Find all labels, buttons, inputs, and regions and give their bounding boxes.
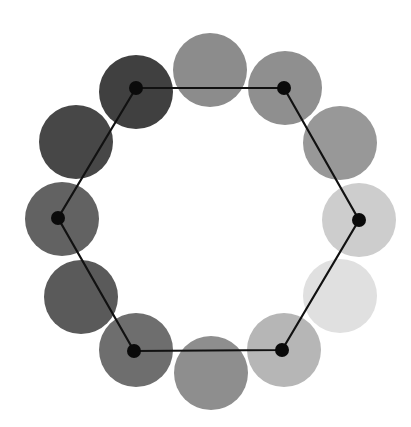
circle-top (173, 33, 247, 107)
color-wheel-hexagon-diagram (0, 0, 411, 427)
hexagon-vertex-dot (51, 211, 65, 225)
circle-ring (25, 33, 396, 410)
hexagon-vertex-dot (352, 213, 366, 227)
hexagon-vertex-dot (129, 81, 143, 95)
hexagon-vertex-dot (277, 81, 291, 95)
hexagon-vertex-dot (127, 344, 141, 358)
circle-left-lower (44, 260, 118, 334)
circle-left-upper (39, 105, 113, 179)
circle-bottom (174, 336, 248, 410)
hexagon-vertex-dot (275, 343, 289, 357)
